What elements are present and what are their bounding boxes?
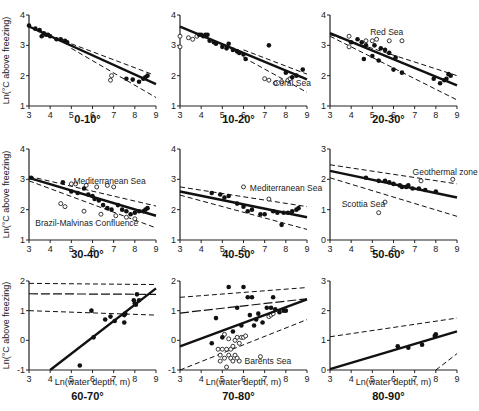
filled-point bbox=[448, 73, 453, 78]
panel-title: 30-40° bbox=[71, 248, 104, 260]
annotation: Geothermal zone bbox=[413, 167, 478, 177]
y-axis-title: Ln(°C above freezing) bbox=[1, 17, 11, 105]
filled-point bbox=[248, 313, 253, 318]
filled-point bbox=[226, 194, 231, 199]
x-tick-label: 9 bbox=[454, 374, 459, 384]
open-point bbox=[400, 39, 404, 43]
x-tick-label: 8 bbox=[132, 244, 137, 254]
x-tick-label: 3 bbox=[327, 244, 332, 254]
filled-point bbox=[296, 206, 301, 211]
regression-line bbox=[180, 27, 307, 80]
y-axis-title: Ln(°C above freezing) bbox=[1, 282, 11, 370]
regression-line bbox=[330, 33, 457, 85]
panel-title: 10-20° bbox=[222, 113, 255, 125]
annotation: Scottia Sea bbox=[342, 199, 386, 209]
y-tick-label: 3 bbox=[321, 144, 326, 154]
x-tick-label: 8 bbox=[132, 374, 137, 384]
x-tick-label: 3 bbox=[26, 374, 31, 384]
filled-point bbox=[145, 206, 150, 211]
filled-point bbox=[108, 314, 113, 319]
x-tick-label: 8 bbox=[283, 110, 288, 120]
panel-title: 70-80° bbox=[222, 390, 255, 402]
filled-point bbox=[220, 335, 225, 340]
y-tick-label: 0 bbox=[321, 235, 326, 245]
regression-line bbox=[50, 288, 156, 370]
panel-10-20: 34567891234Coral Sea10-20° bbox=[171, 10, 311, 125]
y-tick-label: 4 bbox=[321, 10, 326, 20]
y-tick-label: 1 bbox=[20, 101, 25, 111]
filled-point bbox=[438, 81, 443, 86]
y-tick-label: 2 bbox=[20, 276, 25, 286]
open-point bbox=[222, 356, 226, 360]
filled-point bbox=[209, 191, 214, 196]
filled-point bbox=[241, 285, 246, 290]
x-tick-label: 8 bbox=[433, 374, 438, 384]
panel-0-10: 34567891234Ln(°C above freezing)0-10° bbox=[1, 10, 159, 125]
regression-line bbox=[29, 27, 156, 85]
panel-title: 60-70° bbox=[71, 390, 104, 402]
open-point bbox=[375, 37, 379, 41]
y-tick-label: 3 bbox=[321, 40, 326, 50]
x-tick-label: 7 bbox=[111, 244, 116, 254]
filled-point bbox=[122, 320, 127, 325]
open-point bbox=[191, 37, 195, 41]
filled-point bbox=[101, 203, 106, 208]
y-tick-label: 2 bbox=[321, 174, 326, 184]
x-tick-label: 7 bbox=[412, 244, 417, 254]
x-tick-label: 9 bbox=[304, 374, 309, 384]
y-tick-label: 2 bbox=[321, 71, 326, 81]
x-axis-title: Ln(water depth, m) bbox=[206, 377, 282, 387]
x-tick-label: 3 bbox=[177, 374, 182, 384]
annotation: Mediterranean Sea bbox=[250, 183, 323, 193]
x-tick-label: 3 bbox=[327, 374, 332, 384]
filled-point bbox=[82, 186, 87, 191]
filled-point bbox=[256, 311, 261, 316]
filled-point bbox=[267, 43, 272, 48]
panel-70-80: 3456789-1012Barents SeaLn(water depth, m… bbox=[168, 276, 310, 402]
filled-point bbox=[78, 363, 83, 368]
x-tick-label: 7 bbox=[262, 110, 267, 120]
x-axis-title: Ln(water depth, m) bbox=[55, 377, 131, 387]
open-point bbox=[225, 347, 229, 351]
filled-point bbox=[231, 329, 236, 334]
x-tick-label: 8 bbox=[283, 244, 288, 254]
panel-80-90: 34567890123Ln(water depth, m)80-90° bbox=[321, 276, 460, 402]
x-tick-label: 9 bbox=[454, 244, 459, 254]
ci-lower-line bbox=[71, 48, 156, 97]
panel-title: 50-60° bbox=[372, 248, 405, 260]
panel-20-30: 34567891234Red Sea20-30° bbox=[321, 10, 460, 125]
filled-point bbox=[145, 73, 150, 78]
filled-point bbox=[376, 58, 381, 63]
panel-title: 20-30° bbox=[372, 113, 405, 125]
filled-point bbox=[245, 295, 250, 300]
filled-point bbox=[89, 308, 94, 313]
open-point bbox=[347, 45, 351, 49]
y-tick-label: 1 bbox=[321, 205, 326, 215]
filled-point bbox=[362, 57, 367, 62]
open-point bbox=[110, 74, 114, 78]
y-tick-label: -1 bbox=[17, 365, 25, 375]
panel-40-50: 34567891234Mediterranean Sea40-50° bbox=[171, 144, 322, 260]
open-point bbox=[220, 347, 224, 351]
open-point bbox=[227, 337, 231, 341]
x-tick-label: 4 bbox=[349, 244, 354, 254]
panel-title: 80-90° bbox=[372, 390, 405, 402]
y-tick-label: 3 bbox=[171, 174, 176, 184]
y-tick-label: 4 bbox=[171, 10, 176, 20]
open-point bbox=[218, 359, 222, 363]
x-tick-label: 8 bbox=[132, 110, 137, 120]
x-tick-label: 9 bbox=[454, 110, 459, 120]
filled-point bbox=[387, 51, 392, 56]
open-point bbox=[387, 39, 391, 43]
ci-upper-line bbox=[244, 50, 308, 74]
filled-point bbox=[370, 54, 375, 59]
open-point bbox=[108, 78, 112, 82]
filled-point bbox=[61, 180, 66, 185]
ci-lower-line bbox=[436, 354, 457, 370]
filled-point bbox=[258, 212, 263, 217]
filled-point bbox=[372, 43, 377, 48]
filled-point bbox=[124, 209, 129, 214]
y-tick-label: 3 bbox=[20, 174, 25, 184]
x-tick-label: 3 bbox=[26, 110, 31, 120]
x-tick-label: 4 bbox=[199, 374, 204, 384]
